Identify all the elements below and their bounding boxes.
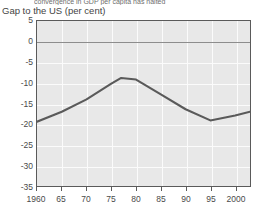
y-axis-tick-label: -5 bbox=[1, 57, 33, 67]
x-axis-tick-label: 2000 bbox=[218, 194, 254, 204]
x-axis-tick-mark bbox=[36, 187, 37, 191]
y-axis-tick-labels: 50-5-10-15-20-25-30-35 bbox=[0, 0, 33, 216]
x-axis-tick-mark bbox=[186, 187, 187, 191]
x-axis-tick-mark bbox=[86, 187, 87, 191]
series-line-gap-to-us bbox=[37, 21, 250, 186]
x-axis-tick-mark bbox=[211, 187, 212, 191]
y-axis-tick-label: -15 bbox=[1, 99, 33, 109]
y-axis-tick-label: -25 bbox=[1, 140, 33, 150]
x-axis-tick-mark bbox=[111, 187, 112, 191]
x-axis-tick-mark bbox=[61, 187, 62, 191]
y-axis-tick-label: -30 bbox=[1, 161, 33, 171]
y-axis-tick-label: -20 bbox=[1, 119, 33, 129]
chart-figure: convergence in GDP per capita has halted… bbox=[0, 0, 265, 216]
y-axis-tick-label: -10 bbox=[1, 78, 33, 88]
y-axis-tick-label: 5 bbox=[1, 15, 33, 25]
plot-area bbox=[36, 20, 251, 187]
y-axis-tick-label: 0 bbox=[1, 36, 33, 46]
y-axis-tick-label: -35 bbox=[1, 182, 33, 192]
x-axis-tick-mark bbox=[236, 187, 237, 191]
x-axis-tick-mark bbox=[136, 187, 137, 191]
x-axis-tick-mark bbox=[161, 187, 162, 191]
